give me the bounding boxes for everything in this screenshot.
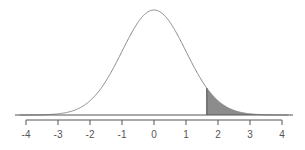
x-tick-label: -2 (86, 129, 95, 140)
x-tick-label: -4 (22, 129, 31, 140)
x-axis: -4-3-2-101234 (22, 120, 286, 140)
x-tick-label: 0 (151, 129, 157, 140)
x-tick-label: -1 (118, 129, 127, 140)
x-tick-label: -3 (54, 129, 63, 140)
x-tick-label: 2 (215, 129, 221, 140)
normal-distribution-chart: -4-3-2-101234 (0, 0, 305, 150)
x-tick-label: 3 (247, 129, 253, 140)
x-tick-label: 1 (183, 129, 189, 140)
x-tick-label: 4 (279, 129, 285, 140)
density-curve (20, 10, 289, 115)
